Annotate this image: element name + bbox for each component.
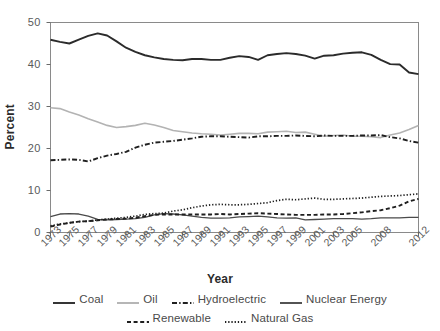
legend-swatch-line — [172, 298, 194, 308]
legend-label: Oil — [143, 293, 157, 305]
y-axis-tick-label: 40 — [17, 58, 41, 70]
legend-label: Coal — [79, 293, 103, 305]
legend-swatch-line — [225, 317, 247, 327]
legend-swatch-line — [53, 298, 75, 308]
y-axis-tick-label: 20 — [17, 142, 41, 154]
legend-label: Nuclear Energy — [306, 293, 387, 305]
plot-frame — [51, 23, 419, 233]
series-line-coal — [51, 33, 419, 74]
legend-line-icon — [127, 313, 149, 323]
legend-row-secondary: RenewableNatural Gas — [0, 308, 440, 327]
chart-legend: CoalOilHydroelectricNuclear Energy Renew… — [0, 289, 440, 327]
legend-label: Natural Gas — [251, 312, 313, 324]
legend-item-hydroelectric[interactable]: Hydroelectric — [172, 293, 266, 305]
y-axis-label: Percent — [3, 104, 17, 149]
legend-swatch-line — [127, 317, 149, 327]
y-axis-tick-label: 50 — [17, 16, 41, 28]
legend-swatch-line — [280, 298, 302, 308]
legend-item-renewable[interactable]: Renewable — [127, 312, 211, 324]
legend-line-icon — [225, 313, 247, 323]
legend-line-icon — [280, 294, 302, 304]
legend-item-oil[interactable]: Oil — [117, 293, 157, 305]
series-line-oil — [51, 108, 419, 138]
legend-label: Hydroelectric — [198, 293, 266, 305]
series-line-hydroelectric — [51, 135, 419, 161]
legend-item-nuclear-energy[interactable]: Nuclear Energy — [280, 293, 387, 305]
chart-figure: Percent Year 01020304050 197319751977197… — [0, 0, 440, 331]
y-axis-tick-label: 30 — [17, 100, 41, 112]
legend-label: Renewable — [153, 312, 211, 324]
legend-line-icon — [53, 294, 75, 304]
legend-item-natural-gas[interactable]: Natural Gas — [225, 312, 313, 324]
legend-item-coal[interactable]: Coal — [53, 293, 103, 305]
y-axis-tick-label: 10 — [17, 184, 41, 196]
legend-line-icon — [117, 294, 139, 304]
legend-swatch-line — [117, 298, 139, 308]
x-axis-label: Year — [0, 272, 440, 286]
legend-line-icon — [172, 294, 194, 304]
series-line-renewable — [51, 199, 419, 227]
y-axis-tick-label: 0 — [17, 226, 41, 238]
series-line-natural-gas — [51, 194, 419, 226]
legend-row-primary: CoalOilHydroelectricNuclear Energy — [0, 289, 440, 308]
